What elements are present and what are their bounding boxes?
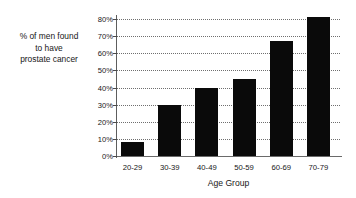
bar <box>233 79 256 156</box>
x-axis-tick-label: 70-79 <box>295 163 341 172</box>
bar <box>158 105 181 156</box>
y-axis-tick <box>113 156 117 157</box>
bar <box>195 88 218 157</box>
y-axis-label-line-2: to have <box>4 43 94 55</box>
y-axis-label-line-1: % of men found <box>4 31 94 43</box>
y-axis-tick <box>113 70 117 71</box>
bar <box>307 17 330 156</box>
x-axis-line <box>116 156 342 157</box>
y-axis-label-line-3: prostate cancer <box>4 54 94 66</box>
y-axis-tick-label: 20% <box>87 117 113 126</box>
y-axis-tick <box>113 139 117 140</box>
y-axis-tick <box>113 36 117 37</box>
y-axis-tick-label: 10% <box>87 134 113 143</box>
y-axis-tick-label: 80% <box>87 15 113 24</box>
bar-chart: % of men found to have prostate cancer 0… <box>0 0 356 198</box>
y-axis-tick <box>113 122 117 123</box>
y-axis-tick-label: 70% <box>87 32 113 41</box>
bar <box>270 41 293 156</box>
y-axis-tick-label: 0% <box>87 152 113 161</box>
y-axis-tick-label: 60% <box>87 49 113 58</box>
y-axis-tick <box>113 88 117 89</box>
x-axis-title: Age Group <box>117 178 340 188</box>
bar <box>121 142 144 156</box>
y-axis-tick <box>113 53 117 54</box>
y-axis-tick-label: 30% <box>87 100 113 109</box>
y-axis-label: % of men found to have prostate cancer <box>4 31 94 66</box>
plot-area <box>117 19 340 156</box>
y-axis-tick-label: 40% <box>87 83 113 92</box>
y-axis-tick <box>113 19 117 20</box>
y-axis-tick <box>113 105 117 106</box>
y-axis-tick-label: 50% <box>87 66 113 75</box>
